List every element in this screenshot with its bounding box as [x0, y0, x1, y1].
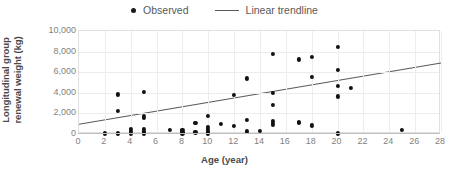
x-axis-line — [78, 133, 440, 134]
x-axis-tick-labels: 0246810121416182022242628 — [78, 136, 440, 150]
x-axis-tick-label: 28 — [435, 136, 445, 146]
gridline-vertical — [182, 31, 183, 132]
x-axis-tick-label: 2 — [101, 136, 106, 146]
y-axis-tick-label: 6,000 — [28, 66, 76, 76]
y-axis-tick-labels: 02,0004,0006,0008,00010,000 — [28, 24, 76, 138]
gridline-vertical — [415, 31, 416, 132]
gridline-vertical — [363, 31, 364, 132]
y-axis-tick-label: 2,000 — [28, 107, 76, 117]
gridline-vertical — [441, 31, 442, 132]
gridline-vertical — [105, 31, 106, 132]
x-axis-tick-label: 20 — [332, 136, 342, 146]
x-axis-tick-label: 14 — [254, 136, 264, 146]
y-axis-tick-label: 4,000 — [28, 87, 76, 97]
legend-item-observed: Observed — [131, 4, 189, 16]
gridline-vertical — [260, 31, 261, 132]
x-axis-tick-label: 16 — [280, 136, 290, 146]
scatter-chart: Observed Linear trendline Longitudinal g… — [0, 0, 449, 178]
x-axis-tick-label: 0 — [75, 136, 80, 146]
y-axis-tick-label: 8,000 — [28, 46, 76, 56]
y-axis-tick-label: 0 — [28, 128, 76, 138]
gridline-vertical — [157, 31, 158, 132]
gridline-horizontal — [79, 113, 439, 114]
gridline-vertical — [131, 31, 132, 132]
y-axis-tick-label: 10,000 — [28, 25, 76, 35]
x-axis-tick-label: 24 — [383, 136, 393, 146]
plot-area — [78, 30, 440, 133]
x-axis-tick-label: 10 — [202, 136, 212, 146]
x-axis-tick-label: 8 — [179, 136, 184, 146]
gridline-vertical — [234, 31, 235, 132]
gridline-horizontal — [79, 72, 439, 73]
x-axis-tick-label: 18 — [306, 136, 316, 146]
x-axis-tick-label: 22 — [357, 136, 367, 146]
gridline-vertical — [389, 31, 390, 132]
gridline-vertical — [312, 31, 313, 132]
x-axis-tick-label: 26 — [409, 136, 419, 146]
x-axis-title: Age (year) — [0, 154, 449, 165]
trendline-marker-icon — [215, 10, 239, 11]
chart-legend: Observed Linear trendline — [0, 4, 449, 16]
x-axis-tick-label: 6 — [153, 136, 158, 146]
gridline-horizontal — [79, 52, 439, 53]
legend-label-observed: Observed — [143, 4, 189, 16]
x-axis-tick-label: 12 — [228, 136, 238, 146]
gridline-horizontal — [79, 93, 439, 94]
legend-label-trendline: Linear trendline — [246, 4, 318, 16]
observed-marker-icon — [131, 8, 136, 13]
x-axis-tick-label: 4 — [127, 136, 132, 146]
gridline-vertical — [286, 31, 287, 132]
legend-item-linear-trendline: Linear trendline — [215, 4, 318, 16]
